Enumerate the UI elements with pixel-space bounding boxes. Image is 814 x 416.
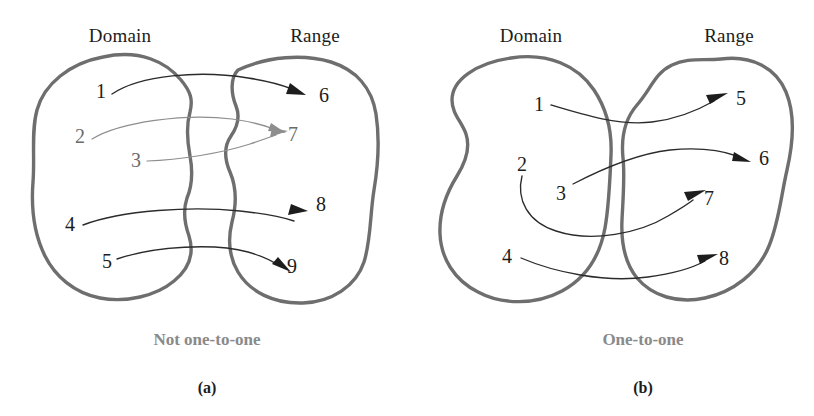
panel-a-range-header: Range: [290, 25, 340, 47]
panel-b-range-node-7: 7: [704, 187, 714, 210]
panel-b-domain-node-1: 1: [534, 93, 544, 116]
panel-a-tag: (a): [198, 379, 217, 397]
panel-b-domain-node-3: 3: [556, 182, 566, 205]
panel-b-domain-blob: [440, 57, 611, 302]
panel-a-domain-node-3: 3: [131, 149, 141, 172]
panel-b-range-node-6: 6: [759, 147, 769, 170]
panel-a-range-node-6: 6: [319, 84, 329, 107]
panel-a-domain-node-4: 4: [65, 213, 75, 236]
panel-b-range-blob: [622, 58, 793, 300]
panel-b-range-header: Range: [704, 25, 754, 47]
function-mapping-figure: Domain Range Domain Range 1 2 3 4 5 6 7 …: [0, 0, 814, 416]
panel-b-tag: (b): [633, 379, 653, 397]
diagram-canvas: [0, 0, 814, 416]
panel-a-range-node-9: 9: [287, 255, 297, 278]
panel-b-range-node-8: 8: [719, 247, 729, 270]
panel-a-domain-node-5: 5: [102, 250, 112, 273]
panel-a-range-node-7: 7: [288, 123, 298, 146]
panel-b-caption: One-to-one: [602, 330, 683, 350]
panel-a-caption: Not one-to-one: [153, 330, 260, 350]
panel-a-range-node-8: 8: [316, 193, 326, 216]
panel-a-domain-header: Domain: [89, 25, 151, 47]
panel-a-domain-node-2: 2: [75, 125, 85, 148]
panel-b-domain-node-4: 4: [502, 245, 512, 268]
panel-a-domain-node-1: 1: [96, 80, 106, 103]
panel-b-domain-node-2: 2: [517, 153, 527, 176]
panel-b-range-node-5: 5: [736, 87, 746, 110]
panel-a-domain-blob: [32, 55, 191, 300]
panel-b-domain-header: Domain: [500, 25, 562, 47]
